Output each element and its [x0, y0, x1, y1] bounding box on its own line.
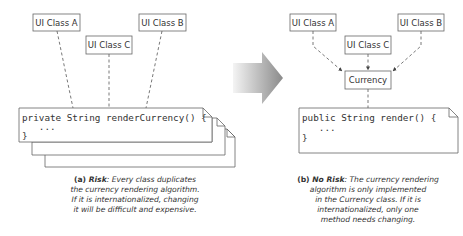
caption-tag: (b) No Risk	[297, 175, 344, 184]
left-class-a: UI Class A	[33, 14, 80, 31]
caption-line: : The currency rendering	[345, 175, 439, 184]
left-caption: (a) Risk: Every class duplicates the cur…	[20, 175, 250, 215]
class-c-label: UI Class C	[88, 40, 130, 50]
connector-b-to-note	[146, 31, 162, 108]
right-class-a: UI Class A	[290, 14, 336, 31]
connector-b-to-currency	[393, 31, 421, 71]
class-c-label: UI Class C	[347, 40, 389, 50]
caption-line: : Every class duplicates	[107, 175, 196, 184]
caption-line: the currency rendering algorithm.	[20, 185, 250, 195]
class-b-label: UI Class B	[141, 18, 183, 28]
caption-line: method needs changing.	[283, 215, 453, 225]
caption-line: internationalized, only one	[283, 205, 453, 215]
connector-a-to-note	[57, 31, 73, 108]
caption-line: If it is internationalized, changing	[20, 195, 250, 205]
caption-line: in the Currency class. If it is	[283, 195, 453, 205]
caption-line: algorithm is only implemented	[283, 185, 453, 195]
note-code-line-3: }	[22, 130, 28, 141]
class-a-label: UI Class A	[35, 18, 77, 28]
right-diagram: UI Class A UI Class C UI Class B Currenc…	[290, 14, 458, 153]
left-class-c: UI Class C	[86, 36, 132, 54]
caption-tag: (a) Risk	[74, 175, 107, 184]
right-class-c: UI Class C	[345, 36, 391, 54]
left-class-b: UI Class B	[139, 14, 186, 31]
note-code-line-3: }	[302, 132, 308, 143]
right-caption: (b) No Risk: The currency rendering algo…	[283, 175, 453, 225]
left-diagram: UI Class A UI Class C UI Class B private…	[19, 14, 235, 167]
class-b-label: UI Class B	[400, 18, 442, 28]
currency-class: Currency	[345, 71, 391, 89]
transition-arrow-icon	[233, 52, 283, 104]
class-a-label: UI Class A	[292, 18, 334, 28]
connector-a-to-currency	[313, 31, 342, 71]
caption-line: it will be difficult and expensive.	[20, 205, 250, 215]
currency-label: Currency	[349, 75, 387, 85]
right-class-b: UI Class B	[398, 14, 444, 31]
